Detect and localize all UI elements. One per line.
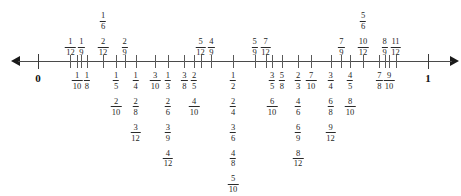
- fraction-label: 212: [98, 37, 109, 57]
- fraction-numerator: 9: [384, 71, 395, 80]
- fraction-numerator: 1: [72, 71, 83, 80]
- label-zero: 0: [35, 72, 41, 84]
- fraction-numerator: 5: [360, 11, 366, 20]
- fraction-denominator: 10: [150, 82, 161, 91]
- fraction-numerator: 7: [376, 71, 382, 80]
- fraction-numerator: 3: [327, 71, 333, 80]
- fraction-numerator: 6: [327, 97, 333, 106]
- fraction-label: 48: [230, 149, 236, 169]
- fraction-denominator: 6: [165, 108, 171, 117]
- fraction-label: 46: [295, 97, 301, 117]
- fraction-numerator: 3: [130, 123, 141, 132]
- fraction-label-stack: 58: [279, 71, 285, 97]
- fraction-label: 56: [360, 11, 366, 31]
- fraction-numerator: 2: [295, 71, 301, 80]
- fraction-numerator: 4: [163, 149, 174, 158]
- fraction-label: 34: [327, 71, 333, 91]
- fraction-label: 812: [293, 149, 304, 169]
- fraction-label-stack: 3468912: [325, 71, 336, 149]
- fraction-label: 312: [130, 123, 141, 143]
- fraction-numerator: 4: [230, 149, 236, 158]
- fraction-label-stack: 1112: [390, 31, 401, 57]
- fraction-denominator: 4: [132, 82, 138, 91]
- tick-mark: [350, 55, 351, 68]
- fraction-denominator: 10: [189, 108, 200, 117]
- fraction-label: 13: [165, 71, 171, 91]
- fraction-denominator: 3: [295, 82, 301, 91]
- fraction-label: 310: [150, 71, 161, 91]
- tick-mark: [298, 55, 299, 68]
- fraction-numerator: 6: [295, 123, 301, 132]
- fraction-label: 23: [295, 71, 301, 91]
- fraction-numerator: 3: [150, 71, 161, 80]
- fraction-denominator: 9: [165, 134, 171, 143]
- fraction-denominator: 8: [181, 82, 187, 91]
- fraction-numerator: 3: [269, 71, 275, 80]
- fraction-label: 15: [113, 71, 119, 91]
- fraction-label: 16: [100, 11, 106, 31]
- fraction-label: 912: [325, 123, 336, 143]
- fraction-denominator: 6: [360, 22, 366, 31]
- fraction-numerator: 2: [191, 71, 197, 80]
- fraction-denominator: 12: [65, 48, 76, 57]
- tick-mark: [233, 55, 234, 68]
- fraction-numerator: 2: [98, 37, 109, 46]
- fraction-numerator: 1: [84, 71, 90, 80]
- fraction-denominator: 12: [195, 48, 206, 57]
- fraction-label: 49: [208, 37, 214, 57]
- fraction-denominator: 8: [84, 82, 90, 91]
- fraction-denominator: 12: [325, 134, 336, 143]
- fraction-label: 35: [269, 71, 275, 91]
- fraction-denominator: 8: [327, 108, 333, 117]
- fraction-denominator: 4: [230, 108, 236, 117]
- fraction-label: 26: [165, 97, 171, 117]
- fraction-denominator: 12: [358, 48, 369, 57]
- fraction-numerator: 7: [260, 37, 271, 46]
- fraction-label: 510: [228, 174, 239, 194]
- fraction-numerator: 4: [208, 37, 214, 46]
- fraction-numerator: 4: [347, 71, 353, 80]
- fraction-numerator: 10: [358, 37, 369, 46]
- fraction-denominator: 5: [191, 82, 197, 91]
- fraction-numerator: 9: [325, 123, 336, 132]
- fraction-label: 25: [191, 71, 197, 91]
- fraction-numerator: 5: [252, 37, 258, 46]
- fraction-label-stack: 112: [65, 31, 76, 57]
- fraction-numerator: 5: [195, 37, 206, 46]
- fraction-label: 12: [230, 71, 236, 91]
- fraction-numerator: 2: [111, 97, 122, 106]
- fraction-label-stack: 45810: [345, 71, 356, 123]
- fraction-label-stack: 49: [208, 31, 214, 57]
- fraction-label-stack: 1428312: [130, 71, 141, 149]
- fraction-numerator: 2: [230, 97, 236, 106]
- fraction-denominator: 8: [132, 108, 138, 117]
- tick-mark: [331, 55, 332, 68]
- fraction-denominator: 6: [230, 134, 236, 143]
- fraction-numerator: 8: [293, 149, 304, 158]
- fraction-denominator: 10: [111, 108, 122, 117]
- fraction-denominator: 10: [267, 108, 278, 117]
- fraction-label: 410: [189, 97, 200, 117]
- fraction-label-stack: 12243648510612: [228, 71, 239, 196]
- fraction-label: 610: [267, 97, 278, 117]
- fraction-numerator: 11: [390, 37, 401, 46]
- fraction-denominator: 9: [122, 48, 128, 57]
- fraction-label: 45: [347, 71, 353, 91]
- fraction-label-stack: 19: [78, 31, 84, 57]
- fraction-label: 412: [163, 149, 174, 169]
- fraction-denominator: 8: [279, 82, 285, 91]
- fraction-denominator: 5: [113, 82, 119, 91]
- label-one: 1: [425, 72, 431, 84]
- fraction-denominator: 9: [295, 134, 301, 143]
- fraction-numerator: 2: [132, 97, 138, 106]
- fraction-denominator: 9: [338, 48, 344, 57]
- tick-endpoint: [428, 54, 429, 69]
- fraction-denominator: 10: [72, 82, 83, 91]
- fraction-label: 810: [345, 97, 356, 117]
- fraction-label-stack: 710: [306, 71, 317, 97]
- fraction-label-stack: 35610: [267, 71, 278, 123]
- fraction-label: 210: [111, 97, 122, 117]
- fraction-label: 18: [84, 71, 90, 91]
- fraction-denominator: 5: [347, 82, 353, 91]
- fraction-numerator: 3: [165, 123, 171, 132]
